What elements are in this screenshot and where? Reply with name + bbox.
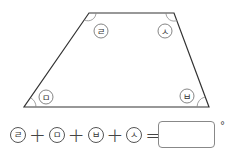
trapezoid-figure: ㄹ ㅅ ㅁ ㅂ [0, 0, 234, 120]
svg-text:ㅁ: ㅁ [42, 93, 50, 103]
label-angle-bottom-left: ㅁ [39, 90, 53, 104]
term-angle-2: ㅁ [49, 127, 65, 143]
svg-text:ㅂ: ㅂ [183, 92, 191, 102]
angle-arc-bottom-right [197, 97, 205, 107]
answer-input-box[interactable] [158, 121, 215, 148]
angle-arc-bottom-left [31, 98, 36, 107]
svg-text:ㄹ: ㄹ [97, 27, 105, 37]
angle-sum-equation: ㄹ + ㅁ + ㅂ + ㅅ = [10, 122, 165, 148]
plus-sign: + [68, 125, 85, 145]
term-angle-4: ㅅ [126, 127, 142, 143]
svg-text:ㅅ: ㅅ [161, 27, 169, 37]
plus-sign: + [107, 125, 124, 145]
plus-sign: + [29, 125, 46, 145]
degree-unit: ° [220, 120, 225, 131]
term-angle-1: ㄹ [10, 127, 26, 143]
label-angle-top-left: ㄹ [94, 24, 108, 38]
label-angle-top-right: ㅅ [158, 24, 172, 38]
term-angle-3: ㅂ [88, 127, 104, 143]
label-angle-bottom-right: ㅂ [180, 89, 194, 103]
